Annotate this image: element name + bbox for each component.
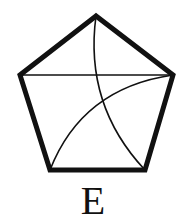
pentagon-outline [20,16,173,170]
figure-label: E [0,181,186,215]
arc-top-to-bottom-right [94,16,145,170]
